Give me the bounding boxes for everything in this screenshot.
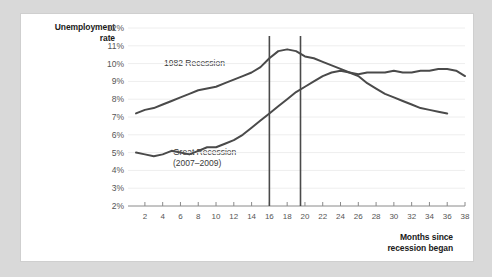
x-tick-label: 2	[143, 212, 148, 221]
x-tick-label: 22	[318, 212, 327, 221]
x-tick-label: 32	[407, 212, 416, 221]
chart-card: Unemployment rate Months since recession…	[20, 13, 474, 262]
x-tick-label: 30	[389, 212, 398, 221]
x-tick-label: 8	[196, 212, 201, 221]
x-tick-marks	[145, 202, 465, 206]
x-tick-label: 28	[372, 212, 381, 221]
y-tick-label: 11%	[108, 41, 125, 51]
x-tick-label: 24	[336, 212, 345, 221]
x-tick-label: 4	[160, 212, 165, 221]
x-tick-label: 36	[443, 212, 452, 221]
x-tick-label: 12	[229, 212, 238, 221]
x-tick-label: 18	[283, 212, 292, 221]
x-tick-label: 10	[212, 212, 221, 221]
y-tick-label: 3%	[112, 183, 125, 193]
y-tick-label: 4%	[112, 165, 125, 175]
y-tick-label: 7%	[112, 112, 125, 122]
x-tick-label: 6	[178, 212, 183, 221]
y-tick-label: 2%	[112, 201, 125, 211]
y-tick-label: 8%	[112, 94, 125, 104]
chart-screenshot: Unemployment rate Months since recession…	[0, 0, 492, 277]
x-tick-label: 34	[425, 212, 434, 221]
y-tick-label: 6%	[112, 130, 125, 140]
plot-svg: 12%11%10%9%8%7%6%5%4%3%2% 24681012141618…	[21, 14, 475, 263]
x-tick-label: 20	[300, 212, 309, 221]
vertical-marker-lines	[269, 36, 300, 206]
x-tick-label: 16	[265, 212, 274, 221]
x-tick-label: 38	[461, 212, 470, 221]
y-tick-label: 9%	[112, 76, 125, 86]
x-tick-label: 26	[354, 212, 363, 221]
y-tick-label: 10%	[107, 59, 124, 69]
y-tick-label: 5%	[112, 148, 125, 158]
y-tick-label: 12%	[107, 23, 124, 33]
x-tick-labels: 2468101214161820222426283032343638	[143, 212, 470, 221]
y-tick-labels: 12%11%10%9%8%7%6%5%4%3%2%	[107, 23, 124, 211]
chart-area: Unemployment rate Months since recession…	[21, 14, 475, 263]
x-tick-label: 14	[247, 212, 256, 221]
